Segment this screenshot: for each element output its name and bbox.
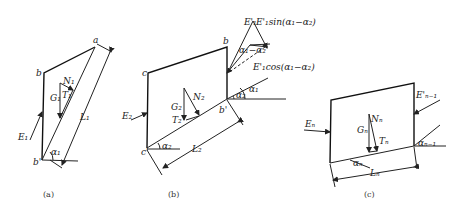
slope-slice-force-diagram: a b b' E₁ G₁ N₁ T₁ L₁ α₁ (a) E'₁ E'₁sin(… — [0, 0, 458, 211]
length-L1-label: L₁ — [79, 112, 90, 122]
caption-b: (b) — [168, 190, 179, 199]
point-cprime-label: c' — [141, 147, 149, 157]
extension-a1-line — [227, 78, 268, 99]
length-Ln-label: Lₙ — [369, 168, 380, 178]
horizontal-ref-a — [42, 160, 78, 161]
caption-a: (a) — [43, 190, 54, 199]
force-En-arrow — [304, 130, 330, 132]
angle-a1-label: α₁ — [249, 84, 259, 94]
point-b-label: b — [223, 36, 229, 46]
force-Gn-label: Gₙ — [357, 125, 368, 135]
force-En-1-label: E'ₙ₋₁ — [415, 90, 437, 100]
panel-a: a b b' E₁ G₁ N₁ T₁ L₁ α₁ (a) — [17, 35, 112, 199]
slice-a-base — [42, 47, 95, 160]
force-G2-label: G₂ — [171, 102, 182, 112]
slice-b-boundary — [147, 47, 227, 148]
angle-diff-label: α₁−α₂ — [239, 45, 266, 55]
force-T2-line — [186, 116, 199, 120]
force-E1-arrow — [30, 112, 42, 140]
angle-a2-label: α₂ — [236, 90, 246, 100]
point-bprime-label: b' — [219, 105, 227, 115]
force-N2-label: N₂ — [192, 92, 205, 102]
length-L2-label: L₂ — [191, 144, 202, 154]
force-Nn-label: Nₙ — [370, 114, 383, 124]
point-bprime-label: b' — [33, 157, 41, 167]
point-c-label: c — [142, 68, 147, 78]
angle-an-label: αₙ — [353, 158, 363, 168]
component-cos-label: E'₁cos(α₁−α₂) — [252, 62, 315, 72]
force-E1prime-label: E'₁ — [243, 17, 257, 27]
panel-c: Eₙ E'ₙ₋₁ Gₙ Nₙ Tₙ αₙ αₙ₋₁ Lₙ (c) — [304, 83, 446, 199]
force-E2-label: E₂ — [121, 111, 133, 121]
slice-c-base — [330, 146, 414, 163]
angle-an-1-label: αₙ₋₁ — [418, 138, 436, 148]
point-a-label: a — [93, 35, 98, 45]
length-dim-L1 — [62, 52, 110, 165]
force-E2-arrow — [131, 113, 147, 120]
angle-a1-label: α₁ — [51, 147, 61, 157]
component-sin-label: E'₁sin(α₁−α₂) — [255, 17, 316, 27]
slice-b-base — [147, 99, 227, 148]
force-Tn-line — [369, 151, 377, 152]
force-En-1-arrow — [414, 100, 440, 114]
force-Tn-label: Tₙ — [379, 136, 389, 146]
force-E1-label: E₁ — [17, 132, 28, 142]
force-T1-label: T₁ — [62, 90, 72, 100]
force-N1-label: N₁ — [62, 76, 74, 86]
angle-a2-base-label: α₂ — [162, 141, 172, 151]
point-b-label: b — [36, 68, 42, 78]
panel-b: E'₁ E'₁sin(α₁−α₂) E'₁cos(α₁−α₂) α₁−α₂ b … — [121, 17, 316, 199]
force-T2-label: T₂ — [172, 115, 182, 125]
caption-c: (c) — [364, 190, 375, 199]
force-G1-label: G₁ — [50, 93, 61, 103]
force-En-label: Eₙ — [304, 119, 316, 129]
